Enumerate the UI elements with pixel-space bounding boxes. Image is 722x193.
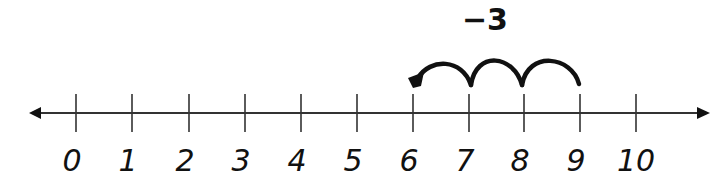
tick-label-7: 7 <box>455 143 474 178</box>
jump-arc-7-to-6 <box>418 64 471 85</box>
jump-arcs <box>418 61 579 85</box>
tick-label-4: 4 <box>287 143 306 178</box>
tick-label-0: 0 <box>62 143 81 178</box>
jump-arrowhead-icon <box>408 72 424 88</box>
tick-label-2: 2 <box>175 143 194 178</box>
right-arrowhead-icon <box>697 107 710 119</box>
tick-label-8: 8 <box>510 143 529 178</box>
jump-arc-9-to-8 <box>522 61 579 85</box>
left-arrowhead-icon <box>29 107 41 119</box>
tick-label-6: 6 <box>399 143 418 178</box>
tick-label-5: 5 <box>343 143 362 178</box>
tick-label-1: 1 <box>118 143 137 178</box>
tick-labels: 0 1 2 3 4 5 6 7 8 9 10 <box>62 143 655 178</box>
tick-label-3: 3 <box>231 143 250 178</box>
operation-label: −3 <box>462 2 508 37</box>
tick-label-10: 10 <box>617 143 655 178</box>
tick-label-9: 9 <box>566 143 585 178</box>
number-line-diagram: 0 1 2 3 4 5 6 7 8 9 10 −3 <box>0 0 722 193</box>
jump-arc-8-to-7 <box>471 61 522 85</box>
